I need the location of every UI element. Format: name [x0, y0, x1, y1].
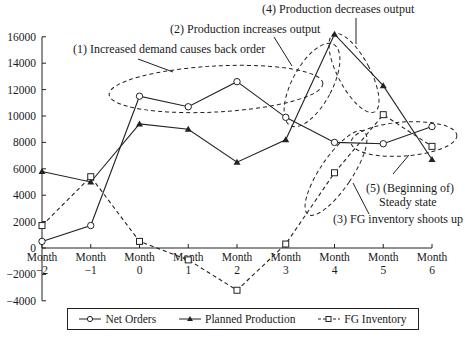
y-tick-label: 4000 — [13, 189, 36, 201]
annotation-3: (3) FG inventory shoots up — [333, 212, 463, 226]
data-point — [283, 241, 289, 247]
x-tick-label: Month — [319, 251, 350, 263]
x-tick-label: Month — [124, 251, 155, 263]
circle-marker-icon — [79, 315, 101, 323]
data-point — [234, 287, 240, 293]
x-tick-label: Month — [75, 251, 106, 263]
data-point — [39, 223, 45, 229]
legend: Net Orders Planned Production FG Invento… — [67, 308, 419, 330]
x-tick-label: 6 — [429, 264, 435, 276]
y-tick-label: 10000 — [7, 110, 36, 122]
data-point — [88, 222, 94, 228]
annotation-2: (2) Production increases output — [170, 22, 321, 36]
y-tick-label: 2000 — [13, 216, 36, 228]
data-point — [136, 120, 143, 126]
data-point — [282, 136, 289, 142]
legend-label: FG Inventory — [344, 313, 406, 325]
data-point — [429, 143, 435, 149]
y-tick-label: −2000 — [7, 268, 37, 280]
x-tick-label: 0 — [137, 264, 143, 276]
y-tick-label: 12000 — [7, 84, 36, 96]
annotation-5-line2: Steady state — [379, 195, 437, 209]
x-tick-label: Month — [222, 251, 253, 263]
x-tick-label: 1 — [185, 264, 191, 276]
legend-item-fg-inventory: FG Inventory — [318, 313, 406, 325]
data-point — [185, 104, 191, 110]
x-tick-label: Month — [368, 251, 399, 263]
data-point — [429, 123, 435, 129]
data-point — [331, 139, 337, 145]
annotation-labels: (1) Increased demand causes back order (… — [73, 2, 463, 226]
axes: 1600014000120001000080006000400020000−20… — [7, 31, 448, 307]
x-tick-label: 5 — [380, 264, 386, 276]
x-tick-label: 2 — [234, 264, 240, 276]
data-point — [283, 114, 289, 120]
data-point — [39, 238, 45, 244]
legend-item-net-orders: Net Orders — [79, 313, 156, 325]
data-point — [380, 141, 386, 147]
data-point — [234, 78, 240, 84]
legend-label: Net Orders — [105, 313, 156, 325]
x-tick-label: Month — [27, 251, 58, 263]
legend-label: Planned Production — [205, 313, 295, 325]
y-tick-label: 6000 — [13, 163, 36, 175]
annotation-4: (4) Production decreases output — [262, 2, 415, 16]
line-chart: 1600014000120001000080006000400020000−20… — [0, 0, 465, 337]
x-tick-label: Month — [417, 251, 448, 263]
data-point — [380, 112, 386, 118]
data-point — [429, 156, 436, 162]
square-marker-icon — [318, 315, 340, 323]
x-tick-label: 3 — [283, 264, 289, 276]
data-point — [332, 170, 338, 176]
x-tick-label: Month — [270, 251, 301, 263]
x-tick-label: −1 — [85, 264, 97, 276]
annotation-5-line1: (5) (Beginning of) — [366, 181, 454, 195]
y-tick-label: 14000 — [7, 57, 36, 69]
x-tick-label: −2 — [36, 264, 48, 276]
triangle-marker-icon — [179, 315, 201, 323]
data-point — [137, 238, 143, 244]
y-tick-label: 8000 — [13, 136, 36, 148]
data-point — [185, 257, 191, 263]
legend-item-planned-production: Planned Production — [179, 313, 295, 325]
data-point — [88, 174, 94, 180]
data-point — [331, 31, 338, 37]
annotation-1: (1) Increased demand causes back order — [73, 42, 265, 56]
y-tick-label: −4000 — [7, 295, 37, 307]
data-point — [234, 159, 241, 165]
x-tick-label: 4 — [332, 264, 338, 276]
y-tick-label: 16000 — [7, 31, 36, 43]
data-point — [136, 93, 142, 99]
